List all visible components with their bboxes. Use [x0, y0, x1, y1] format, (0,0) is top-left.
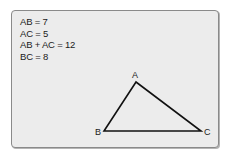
vertex-label-a: A — [132, 70, 138, 80]
vertex-label-c: C — [204, 127, 211, 137]
triangle-figure: A B C — [0, 0, 233, 157]
vertex-label-b: B — [95, 127, 101, 137]
triangle-abc — [104, 82, 201, 131]
